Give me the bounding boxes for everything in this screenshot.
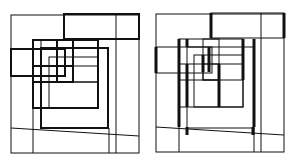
diagram-right-nested-rectangles xyxy=(145,0,295,163)
diagram-left-canvas xyxy=(0,0,150,163)
diagram-right-canvas xyxy=(145,0,295,163)
rectangle-7 xyxy=(57,66,98,82)
line-segment-1 xyxy=(11,128,139,136)
rectangle-1 xyxy=(64,14,139,39)
rectangle-6 xyxy=(203,39,219,80)
rectangle-5 xyxy=(33,66,73,82)
rectangle-5 xyxy=(179,64,219,80)
diagram-left-nested-rectangles xyxy=(0,0,150,163)
rectangle-1 xyxy=(211,13,284,38)
